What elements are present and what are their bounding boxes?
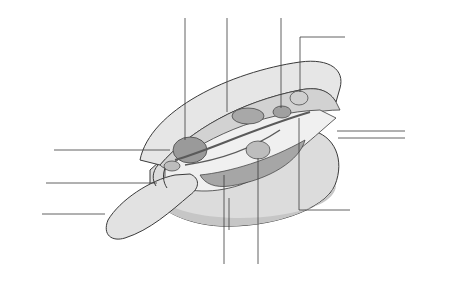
kidney-organ (273, 106, 291, 118)
anterior-muscle (164, 161, 180, 171)
clam-illustration (0, 0, 465, 281)
clam-anatomy-diagram (0, 0, 465, 281)
sex-organ (246, 141, 270, 159)
heart-organ (232, 108, 264, 124)
posterior-muscle (290, 91, 308, 105)
